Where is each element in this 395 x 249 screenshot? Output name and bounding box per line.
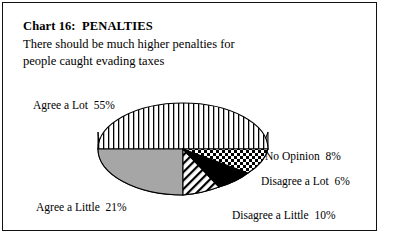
side-wall-disagree-lot — [219, 156, 248, 187]
slice-agree-a-little — [98, 149, 183, 195]
chart-subtitle-line-1: There should be much higher penalties fo… — [23, 36, 323, 53]
slice-disagree-a-lot — [183, 149, 248, 187]
page-title: Chart 16: PENALTIES — [23, 19, 153, 34]
pie-slices-top — [98, 103, 268, 195]
slice-label-disagree-a-lot: Disagree a Lot 6% — [261, 175, 350, 187]
slice-label-no-opinion: No Opinion 8% — [265, 150, 341, 162]
side-wall-disagree-little — [183, 170, 219, 195]
side-wall-agree-little — [98, 132, 183, 195]
slice-label-disagree-a-little: Disagree a Little 10% — [232, 209, 335, 221]
chart-subtitle: There should be much higher penalties fo… — [23, 36, 323, 70]
slice-label-agree-a-little: Agree a Little 21% — [36, 201, 127, 213]
slice-agree-a-lot — [98, 103, 268, 149]
slice-label-agree-a-lot: Agree a Lot 55% — [33, 99, 115, 111]
slice-no-opinion — [183, 149, 268, 173]
pie-3d-sides — [98, 132, 268, 195]
chart-card: Chart 16: PENALTIES There should be much… — [2, 2, 377, 231]
slice-disagree-a-little — [183, 149, 219, 195]
chart-subtitle-line-2: people caught evading taxes — [23, 53, 323, 70]
